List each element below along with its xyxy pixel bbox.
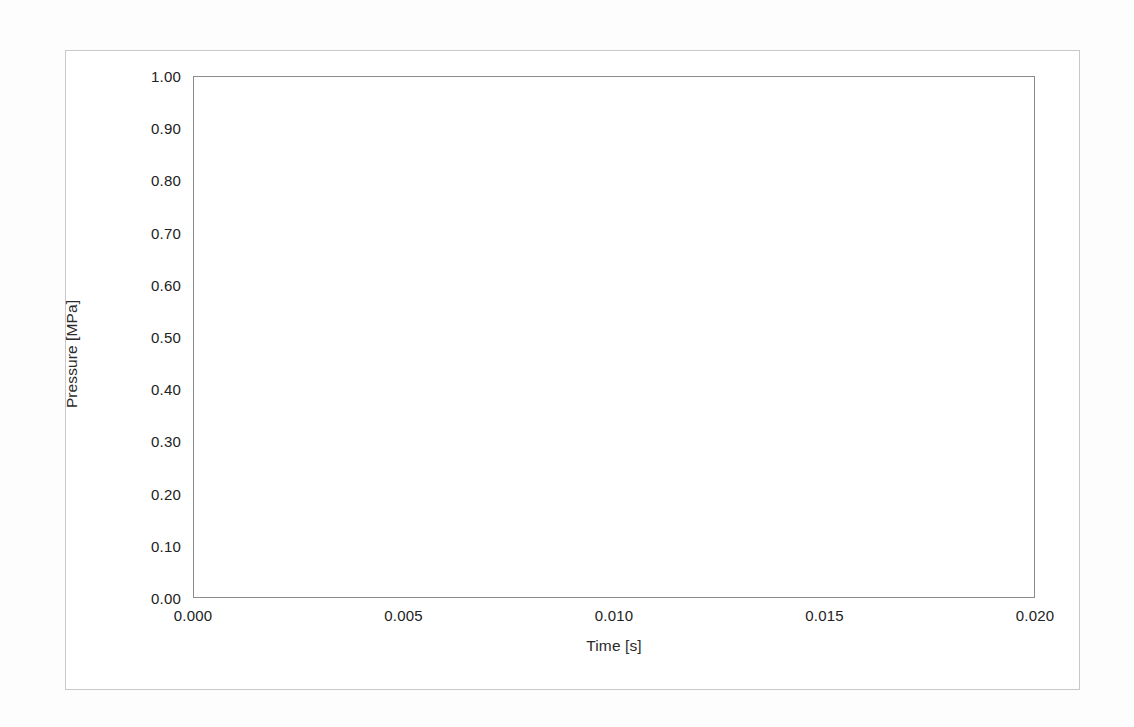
x-tick-label: 0.020 <box>980 607 1090 624</box>
y-tick-label: 0.30 <box>111 433 181 450</box>
plot-frame <box>193 76 1035 598</box>
y-tick-label: 0.20 <box>111 485 181 502</box>
x-axis-title: Time [s] <box>193 637 1035 655</box>
y-tick-label: 0.90 <box>111 120 181 137</box>
y-tick-label: 0.50 <box>111 329 181 346</box>
x-tick-label: 0.005 <box>349 607 459 624</box>
x-axis-tick-labels: 0.0000.0050.0100.0150.020 <box>193 607 1035 631</box>
y-tick-label: 0.00 <box>111 590 181 607</box>
y-tick-label: 0.10 <box>111 537 181 554</box>
y-tick-label: 0.70 <box>111 224 181 241</box>
plot-area <box>193 76 1035 598</box>
y-tick-label: 1.00 <box>111 68 181 85</box>
y-tick-label: 0.40 <box>111 381 181 398</box>
x-tick-label: 0.015 <box>770 607 880 624</box>
x-tick-label: 0.000 <box>138 607 248 624</box>
y-tick-label: 0.80 <box>111 172 181 189</box>
y-axis-tick-labels: 0.000.100.200.300.400.500.600.700.800.90… <box>113 76 181 598</box>
y-tick-label: 0.60 <box>111 276 181 293</box>
x-tick-label: 0.010 <box>559 607 669 624</box>
y-axis-title: Pressure [MPa] <box>63 224 89 484</box>
